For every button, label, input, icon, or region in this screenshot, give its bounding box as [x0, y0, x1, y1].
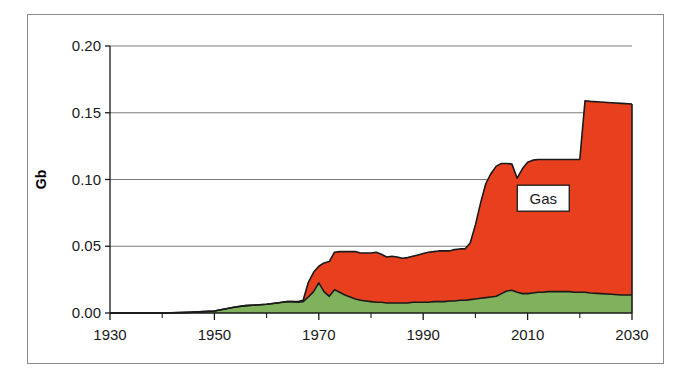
- y-tick-label: 0.20: [72, 37, 101, 54]
- y-tick-label: 0.10: [72, 171, 101, 188]
- annotation-label-gas: Gas: [530, 190, 558, 207]
- y-axis-title: Gb: [33, 170, 49, 189]
- x-tick-label: 1970: [302, 326, 335, 343]
- x-tick-label: 2010: [511, 326, 544, 343]
- area-chart: 0.000.050.100.150.20 1930195019701990201…: [0, 0, 682, 377]
- y-tick-label: 0.00: [72, 304, 101, 321]
- y-axis-title-group: Gb: [33, 170, 49, 189]
- x-tick-label: 1930: [93, 326, 126, 343]
- y-tick-label: 0.15: [72, 104, 101, 121]
- annotations-group: Gas: [517, 185, 569, 211]
- x-tick-label: 1990: [407, 326, 440, 343]
- y-tick-labels-group: 0.000.050.100.150.20: [72, 37, 101, 321]
- y-tick-label: 0.05: [72, 237, 101, 254]
- chart-figure: 0.000.050.100.150.20 1930195019701990201…: [0, 0, 682, 377]
- x-tick-label: 2030: [615, 326, 648, 343]
- x-tick-label: 1950: [198, 326, 231, 343]
- x-tick-labels-group: 193019501970199020102030: [93, 326, 648, 343]
